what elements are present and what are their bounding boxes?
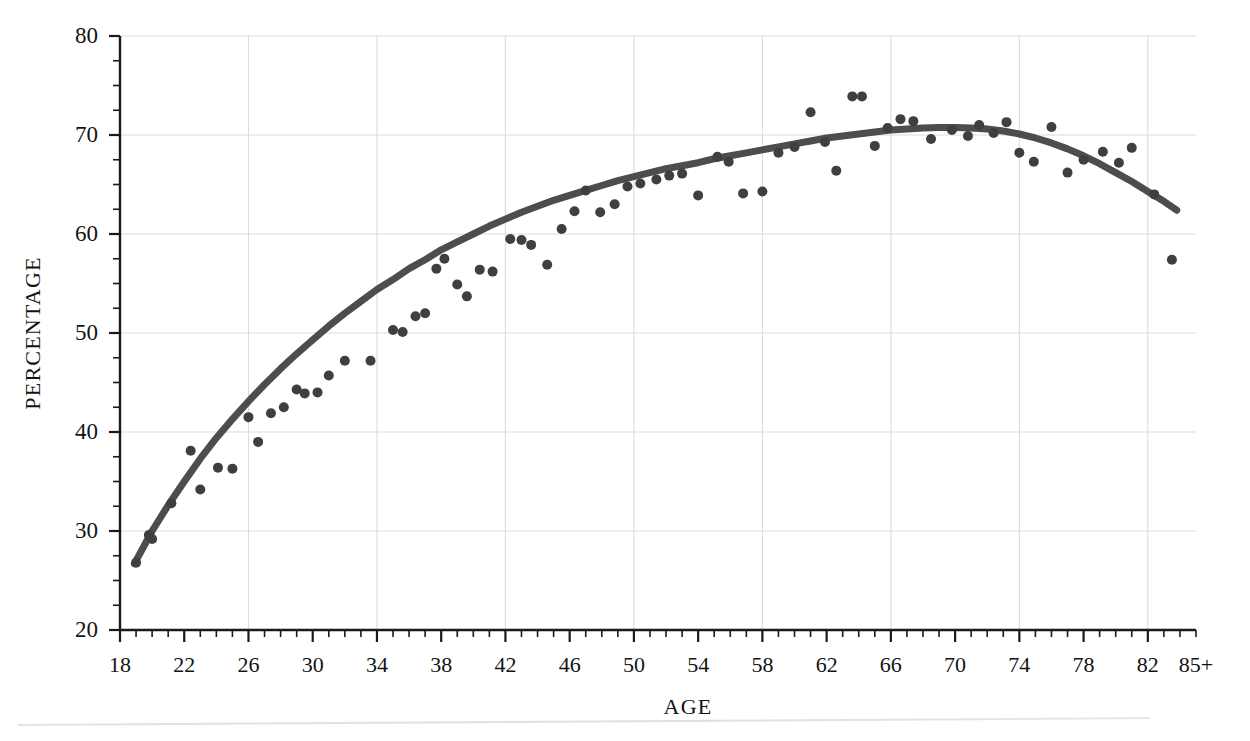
data-point: [431, 264, 441, 274]
data-point: [664, 171, 674, 181]
data-point: [883, 123, 893, 133]
data-point: [475, 265, 485, 275]
data-point: [693, 190, 703, 200]
data-point: [1127, 143, 1137, 153]
data-point: [1002, 117, 1012, 127]
data-point: [131, 558, 141, 568]
data-point: [439, 254, 449, 264]
data-point: [462, 291, 472, 301]
data-point: [253, 437, 263, 447]
data-point: [243, 412, 253, 422]
data-point: [324, 371, 334, 381]
data-point: [195, 484, 205, 494]
y-tick-label: 70: [75, 122, 98, 147]
data-point: [870, 141, 880, 151]
data-point: [569, 206, 579, 216]
data-point: [505, 234, 515, 244]
data-point: [908, 116, 918, 126]
x-tick-label: 85+: [1179, 652, 1213, 677]
age-percentage-scatter-chart: AGEPERCENTAGE 20304050607080182226303438…: [0, 0, 1250, 741]
x-tick-label: 46: [559, 652, 581, 677]
data-point: [542, 260, 552, 270]
x-tick-label: 66: [880, 652, 902, 677]
data-point: [806, 107, 816, 117]
x-tick-label: 58: [751, 652, 773, 677]
data-point: [340, 356, 350, 366]
data-point: [166, 498, 176, 508]
data-point: [452, 279, 462, 289]
data-point: [847, 91, 857, 101]
data-point: [1063, 168, 1073, 178]
data-point: [831, 166, 841, 176]
tick-labels: 2030405060708018222630343842465054586266…: [75, 23, 1213, 677]
data-point: [398, 327, 408, 337]
data-point: [1149, 189, 1159, 199]
data-point: [557, 224, 567, 234]
grid-layer: [120, 36, 1196, 630]
data-point: [712, 152, 722, 162]
fitted-curve: [134, 128, 1176, 564]
x-axis-title: AGE: [664, 694, 713, 719]
data-point: [1046, 122, 1056, 132]
x-tick-label: 38: [430, 652, 452, 677]
data-point: [820, 137, 830, 147]
data-point: [1167, 255, 1177, 265]
data-point: [1114, 158, 1124, 168]
x-tick-label: 34: [366, 652, 388, 677]
data-point: [279, 402, 289, 412]
data-point: [926, 134, 936, 144]
y-tick-label: 50: [75, 320, 98, 345]
y-tick-label: 80: [75, 23, 98, 48]
chart-figure: AGEPERCENTAGE 20304050607080182226303438…: [0, 0, 1250, 741]
tick-layer: [109, 36, 1196, 642]
data-point: [213, 463, 223, 473]
data-point: [581, 185, 591, 195]
data-point: [635, 179, 645, 189]
data-point: [896, 114, 906, 124]
x-tick-label: 42: [494, 652, 516, 677]
data-point: [313, 387, 323, 397]
data-point: [526, 240, 536, 250]
x-tick-label: 70: [944, 652, 966, 677]
data-point: [411, 311, 421, 321]
data-points: [131, 91, 1177, 567]
data-point: [366, 356, 376, 366]
data-point: [1079, 155, 1089, 165]
x-tick-label: 18: [109, 652, 131, 677]
data-point: [677, 169, 687, 179]
y-tick-label: 20: [75, 617, 98, 642]
data-point: [186, 446, 196, 456]
data-point: [963, 131, 973, 141]
data-point: [610, 199, 620, 209]
data-point: [1098, 147, 1108, 157]
data-point: [651, 175, 661, 185]
y-tick-label: 60: [75, 221, 98, 246]
x-tick-label: 50: [623, 652, 645, 677]
x-tick-label: 22: [173, 652, 195, 677]
data-point: [388, 325, 398, 335]
data-point: [516, 235, 526, 245]
data-point: [773, 148, 783, 158]
data-point: [989, 128, 999, 138]
y-tick-label: 40: [75, 419, 98, 444]
y-axis-title: PERCENTAGE: [20, 256, 45, 409]
data-point: [266, 408, 276, 418]
x-tick-label: 82: [1137, 652, 1159, 677]
data-point: [595, 207, 605, 217]
data-point: [1014, 148, 1024, 158]
data-point: [1029, 157, 1039, 167]
data-point: [947, 125, 957, 135]
data-point: [622, 181, 632, 191]
x-tick-label: 26: [237, 652, 259, 677]
data-point: [757, 186, 767, 196]
data-point: [227, 464, 237, 474]
data-point: [974, 120, 984, 130]
x-tick-label: 74: [1008, 652, 1030, 677]
data-point: [420, 308, 430, 318]
data-point: [724, 157, 734, 167]
x-tick-label: 78: [1073, 652, 1095, 677]
x-tick-label: 54: [687, 652, 709, 677]
y-tick-label: 30: [75, 518, 98, 543]
data-point: [147, 534, 157, 544]
data-point: [300, 388, 310, 398]
